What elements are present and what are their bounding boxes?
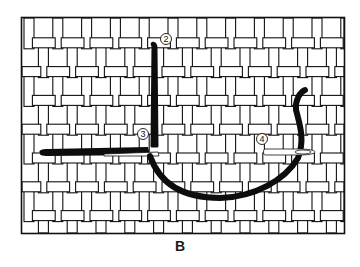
weave-thread-horizontal [119, 38, 142, 48]
weave-thread-horizontal [292, 211, 315, 221]
figure-caption: B [0, 238, 360, 254]
weave-thread-horizontal [176, 38, 199, 48]
weave-thread-horizontal [248, 124, 271, 134]
weave-thread-horizontal [32, 38, 55, 48]
weave-thread-horizontal [162, 124, 185, 134]
weave-thread-horizontal [148, 211, 171, 221]
weave-thread-horizontal [248, 67, 271, 77]
step-marker-3: 3 [138, 129, 149, 140]
weave-thread-horizontal [76, 124, 99, 134]
weave-thread-horizontal [234, 153, 257, 163]
weave-thread-horizontal [61, 95, 84, 105]
weave-thread-horizontal [234, 38, 257, 48]
weave-thread-horizontal [90, 211, 113, 221]
weave-thread-horizontal [90, 95, 113, 105]
weave-thread-horizontal [61, 211, 84, 221]
weave-thread-horizontal [22, 182, 41, 192]
weave-thread-horizontal [22, 67, 41, 77]
weave-thread-horizontal [104, 182, 127, 192]
weave-thread-horizontal [320, 211, 343, 221]
weave-thread-horizontal [191, 67, 214, 77]
weave-thread-horizontal [234, 95, 257, 105]
weave-thread-horizontal [220, 182, 243, 192]
weave-thread-horizontal [76, 67, 99, 77]
weave-thread-horizontal [119, 95, 142, 105]
weave-thread-horizontal [47, 67, 70, 77]
weave-thread-horizontal [335, 67, 344, 77]
weave-thread-horizontal [306, 124, 329, 134]
weave-thread-horizontal [263, 211, 286, 221]
weave-thread-horizontal [205, 211, 228, 221]
weave-thread-horizontal [277, 124, 300, 134]
weave-thread-horizontal [176, 153, 199, 163]
weave-thread-horizontal [104, 124, 127, 134]
weave-thread-horizontal [234, 211, 257, 221]
step-marker-2: 2 [161, 34, 172, 45]
weave-thread-horizontal [176, 95, 199, 105]
weave-thread-horizontal [306, 182, 329, 192]
needle-right [264, 149, 316, 155]
step-label-4: 4 [259, 134, 264, 144]
weave-thread-horizontal [119, 211, 142, 221]
weave-thread-horizontal [205, 38, 228, 48]
weave-thread-horizontal [320, 95, 343, 105]
weave-thread-horizontal [176, 211, 199, 221]
weave-thread-horizontal [277, 182, 300, 192]
canvas-weave-grid [22, 18, 344, 233]
thread-vertical-stitch [152, 43, 157, 146]
weave-thread-horizontal [205, 95, 228, 105]
weave-thread-horizontal [191, 182, 214, 192]
weave-thread-horizontal [162, 67, 185, 77]
step-label-2: 2 [163, 34, 168, 44]
weave-thread-horizontal [61, 38, 84, 48]
weave-thread-horizontal [277, 67, 300, 77]
weave-thread-horizontal [335, 124, 344, 134]
weave-thread-horizontal [47, 124, 70, 134]
weave-thread-horizontal [133, 182, 156, 192]
weave-thread-horizontal [47, 182, 70, 192]
weave-thread-horizontal [220, 124, 243, 134]
weave-thread-horizontal [220, 67, 243, 77]
weave-thread-horizontal [104, 67, 127, 77]
stitch-diagram: 2 3 4 [0, 0, 360, 267]
weave-thread-horizontal [320, 153, 343, 163]
weave-thread-horizontal [90, 38, 113, 48]
step-label-3: 3 [140, 129, 145, 139]
weave-thread-horizontal [306, 67, 329, 77]
weave-thread-horizontal [32, 211, 55, 221]
step-marker-4: 4 [257, 134, 268, 145]
weave-thread-horizontal [22, 124, 41, 134]
weave-thread-horizontal [263, 38, 286, 48]
weave-thread-horizontal [191, 124, 214, 134]
weave-thread-horizontal [263, 95, 286, 105]
weave-thread-horizontal [205, 153, 228, 163]
weave-thread-horizontal [292, 38, 315, 48]
weave-thread-horizontal [335, 182, 344, 192]
weave-thread-horizontal [76, 182, 99, 192]
weave-thread-horizontal [320, 38, 343, 48]
weave-thread-horizontal [32, 95, 55, 105]
